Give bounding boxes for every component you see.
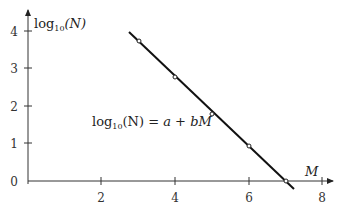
y-tick-label: 2 [10,100,18,114]
x-tick-label: 2 [97,191,105,205]
y-tick-label: 4 [10,25,18,39]
x-tick-label: 4 [171,191,179,205]
data-point [284,179,288,183]
data-point [173,75,177,79]
y-axis-label: log10(N) [34,16,86,33]
data-point [137,39,141,43]
y-tick-label: 1 [10,137,18,151]
x-axis-label: M [304,164,319,179]
x-tick-label: 6 [245,191,253,205]
equation-annotation: log10(N) = a + bM [92,114,212,131]
data-point [247,144,251,148]
y-tick-label: 3 [10,62,18,76]
fit-line [129,32,294,189]
y-tick-label: 0 [10,175,18,189]
x-tick-label: 8 [318,191,326,205]
chart-canvas: 2 4 6 8 0 1 2 3 4 log10(N) M log10(N) = … [0,0,341,213]
